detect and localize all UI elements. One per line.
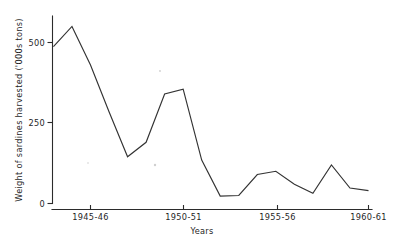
- line-chart: 500 250 0 Weight of sardines harvested (…: [0, 0, 396, 243]
- y-axis-title: Weight of sardines harvested ('000s tons…: [14, 18, 24, 202]
- y-axis-tick-label-500: 500: [28, 38, 45, 48]
- paper-speck: [154, 164, 156, 166]
- x-axis-tick-label-1955: 1955-56: [259, 212, 295, 222]
- x-axis-tick-label-1945: 1945-46: [72, 212, 108, 222]
- chart-container: 500 250 0 Weight of sardines harvested (…: [0, 0, 396, 243]
- paper-speck: [87, 162, 89, 164]
- paper-speck: [159, 70, 161, 72]
- x-axis-title: Years: [189, 226, 213, 236]
- y-axis-tick-label-0: 0: [39, 199, 45, 209]
- x-axis-tick-label-1960: 1960-61: [350, 212, 386, 222]
- x-axis-tick-label-1950: 1950-51: [165, 212, 201, 222]
- chart-background: [0, 0, 396, 243]
- y-axis-tick-label-250: 250: [28, 118, 45, 128]
